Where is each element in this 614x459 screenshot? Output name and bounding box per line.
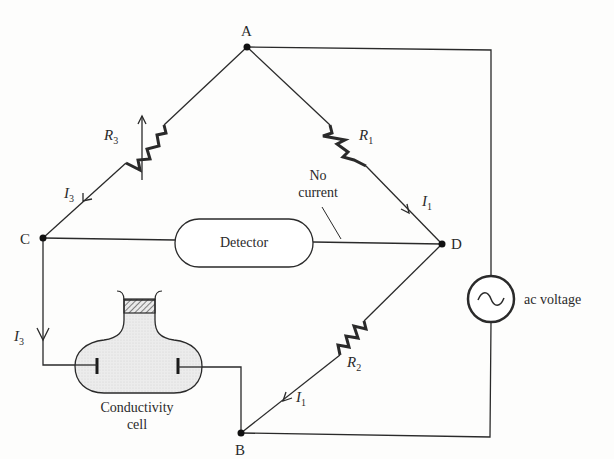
conductivity-cell: Conductivity cell <box>75 291 202 432</box>
wire-c-to-detector <box>43 238 175 240</box>
node-a-label: A <box>241 23 252 39</box>
cell-label-line2: cell <box>127 417 147 432</box>
cell-stopper-icon <box>124 299 155 313</box>
node-b-label: B <box>235 442 245 458</box>
no-current-label-line1: No <box>309 168 326 183</box>
no-current-label-line2: current <box>298 185 338 200</box>
resistor-r2-icon <box>338 321 366 355</box>
r2-label: R2 <box>346 354 361 373</box>
node-d-dot <box>439 241 446 248</box>
wire-detector-to-d <box>313 242 442 244</box>
r3-label: R3 <box>103 127 118 146</box>
i3-upper-label: I3 <box>63 185 74 204</box>
i1-lower-label: I1 <box>295 389 306 408</box>
wire-a-to-d <box>247 47 442 244</box>
r1-label: R1 <box>358 127 373 146</box>
wire-a-to-c <box>43 47 247 238</box>
wire-source-to-b <box>241 322 491 437</box>
node-b-dot <box>238 430 245 437</box>
node-c-label: C <box>20 231 30 247</box>
no-current-pointer <box>322 207 341 239</box>
node-d-label: D <box>451 236 462 252</box>
wire-cell-to-b <box>202 367 241 433</box>
i3-lower-label: I3 <box>13 328 24 347</box>
wire-c-to-cell <box>43 238 75 365</box>
cell-label-line1: Conductivity <box>100 400 173 415</box>
variable-resistor-r3-icon <box>126 116 166 180</box>
node-a-dot <box>244 44 251 51</box>
wire-d-to-b <box>241 244 442 433</box>
wheatstone-bridge-diagram: Detector ac voltage Conductivity cell A … <box>0 0 614 459</box>
i1-upper-label: I1 <box>421 193 432 212</box>
detector: Detector <box>175 219 313 267</box>
ac-voltage-source: ac voltage <box>468 276 581 322</box>
ac-voltage-label: ac voltage <box>524 292 581 307</box>
node-c-dot <box>40 235 47 242</box>
detector-label: Detector <box>220 235 269 250</box>
